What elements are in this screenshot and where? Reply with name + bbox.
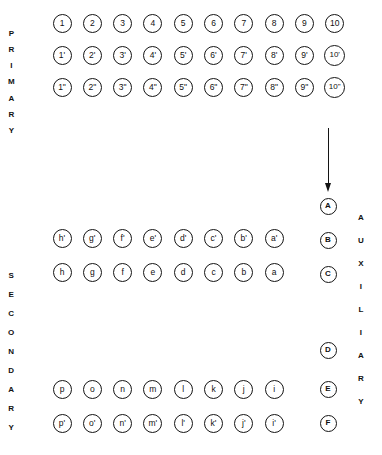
secondary-node-f-label: f [121, 268, 123, 277]
secondary-node-i-label: i [273, 385, 275, 394]
diagram-canvas: PRIMARY SECONDARY AUXILIARY 123456789101… [0, 0, 382, 455]
secondary-label-letter-3: O [8, 329, 14, 337]
primary-node-10-dprime-label: 10" [329, 83, 341, 91]
primary-node-7-dprime[interactable]: 7" [234, 78, 253, 97]
primary-node-9-dprime[interactable]: 9" [295, 78, 314, 97]
secondary-node-g-prime-label: g' [89, 234, 95, 243]
primary-node-4-dprime[interactable]: 4" [143, 78, 162, 97]
primary-node-7-prime-label: 7' [241, 51, 247, 60]
secondary-node-e-prime[interactable]: e' [143, 229, 162, 248]
secondary-node-f[interactable]: f [113, 263, 132, 282]
secondary-node-k[interactable]: k [204, 380, 223, 399]
auxiliary-node-F[interactable]: F [320, 415, 337, 432]
primary-node-9-prime[interactable]: 9' [295, 46, 314, 65]
primary-section-label: PRIMARY [8, 30, 15, 135]
secondary-node-o-prime[interactable]: o' [83, 414, 102, 433]
secondary-node-g-prime[interactable]: g' [83, 229, 102, 248]
secondary-node-d-prime[interactable]: d' [174, 229, 193, 248]
secondary-node-p-label: p [60, 385, 65, 394]
downward-arrow-head [325, 183, 331, 192]
secondary-node-l-prime[interactable]: l' [174, 414, 193, 433]
secondary-label-letter-6: A [8, 386, 14, 394]
primary-node-5-dprime[interactable]: 5" [174, 78, 193, 97]
downward-arrow-shaft [328, 128, 330, 186]
secondary-node-l[interactable]: l [174, 380, 193, 399]
primary-node-5[interactable]: 5 [174, 14, 193, 33]
primary-node-5-prime[interactable]: 5' [174, 46, 193, 65]
secondary-label-letter-7: R [8, 405, 14, 413]
auxiliary-label-letter-7: R [358, 375, 364, 383]
primary-node-8[interactable]: 8 [265, 14, 284, 33]
primary-node-10-dprime[interactable]: 10" [324, 77, 345, 98]
secondary-node-i-prime[interactable]: i' [265, 414, 284, 433]
primary-node-8-dprime[interactable]: 8" [265, 78, 284, 97]
primary-node-1-dprime-label: 1" [58, 83, 66, 92]
auxiliary-node-A-label: A [325, 202, 331, 210]
secondary-node-n[interactable]: n [113, 380, 132, 399]
secondary-node-o[interactable]: o [83, 380, 102, 399]
secondary-node-n-prime[interactable]: n' [113, 414, 132, 433]
secondary-node-f-prime[interactable]: f' [113, 229, 132, 248]
primary-label-letter-5: R [8, 111, 14, 119]
auxiliary-node-F-label: F [326, 419, 331, 427]
secondary-node-m-prime[interactable]: m' [143, 414, 162, 433]
primary-node-6[interactable]: 6 [204, 14, 223, 33]
primary-node-3-prime-label: 3' [119, 51, 125, 60]
primary-node-3-dprime[interactable]: 3" [113, 78, 132, 97]
primary-node-9[interactable]: 9 [295, 14, 314, 33]
auxiliary-node-B[interactable]: B [320, 232, 337, 249]
secondary-node-c-prime[interactable]: c' [204, 229, 223, 248]
secondary-label-letter-2: C [8, 310, 14, 318]
auxiliary-label-letter-0: A [358, 214, 364, 222]
primary-node-7[interactable]: 7 [234, 14, 253, 33]
primary-node-8-prime[interactable]: 8' [265, 46, 284, 65]
primary-node-8-label: 8 [272, 19, 277, 28]
primary-node-3-prime[interactable]: 3' [113, 46, 132, 65]
auxiliary-label-letter-6: A [358, 352, 364, 360]
primary-node-4[interactable]: 4 [143, 14, 162, 33]
primary-node-10-prime[interactable]: 10' [324, 45, 345, 66]
primary-node-1[interactable]: 1 [53, 14, 72, 33]
primary-node-4-prime[interactable]: 4' [143, 46, 162, 65]
secondary-node-c[interactable]: c [204, 263, 223, 282]
secondary-node-d[interactable]: d [174, 263, 193, 282]
secondary-node-a-label: a [272, 268, 277, 277]
primary-node-1-dprime[interactable]: 1" [53, 78, 72, 97]
secondary-node-a-prime[interactable]: a' [265, 229, 284, 248]
secondary-node-m[interactable]: m [143, 380, 162, 399]
secondary-node-g[interactable]: g [83, 263, 102, 282]
primary-node-1-prime[interactable]: 1' [53, 46, 72, 65]
primary-node-10[interactable]: 10 [325, 14, 344, 33]
auxiliary-label-letter-1: U [358, 237, 364, 245]
secondary-node-i[interactable]: i [265, 380, 284, 399]
secondary-node-p[interactable]: p [53, 380, 72, 399]
secondary-node-m-label: m [149, 385, 156, 394]
primary-node-2[interactable]: 2 [83, 14, 102, 33]
primary-node-10-prime-label: 10' [329, 51, 339, 59]
secondary-node-a[interactable]: a [265, 263, 284, 282]
primary-node-2-dprime[interactable]: 2" [83, 78, 102, 97]
secondary-node-j-prime[interactable]: j' [234, 414, 253, 433]
secondary-node-j[interactable]: j [234, 380, 253, 399]
auxiliary-node-D[interactable]: D [320, 342, 337, 359]
primary-node-6-dprime[interactable]: 6" [204, 78, 223, 97]
primary-node-2-dprime-label: 2" [88, 83, 96, 92]
secondary-node-e-prime-label: e' [150, 234, 156, 243]
auxiliary-node-A[interactable]: A [320, 198, 337, 215]
secondary-node-c-prime-label: c' [211, 234, 217, 243]
primary-node-6-prime[interactable]: 6' [204, 46, 223, 65]
secondary-node-b-prime[interactable]: b' [234, 229, 253, 248]
secondary-node-h-prime[interactable]: h' [53, 229, 72, 248]
secondary-node-h[interactable]: h [53, 263, 72, 282]
secondary-node-p-prime[interactable]: p' [53, 414, 72, 433]
primary-node-2-prime[interactable]: 2' [83, 46, 102, 65]
secondary-node-l-prime-label: l' [181, 419, 185, 428]
secondary-node-e[interactable]: e [143, 263, 162, 282]
primary-node-7-prime[interactable]: 7' [234, 46, 253, 65]
secondary-node-b[interactable]: b [234, 263, 253, 282]
primary-node-3[interactable]: 3 [113, 14, 132, 33]
auxiliary-node-E[interactable]: E [320, 381, 337, 398]
auxiliary-section-label: AUXILIARY [358, 214, 364, 406]
auxiliary-node-C[interactable]: C [320, 266, 337, 283]
secondary-node-k-prime[interactable]: k' [204, 414, 223, 433]
